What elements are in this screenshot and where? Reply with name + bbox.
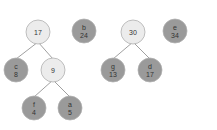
node-value: 17	[34, 29, 42, 36]
leaf-node-c: c8	[4, 58, 28, 82]
leaf-node-b: b24	[72, 19, 96, 43]
leaf-node-d: d17	[138, 58, 162, 82]
leaf-node-g: g13	[101, 58, 125, 82]
leaf-node-a: a5	[58, 96, 82, 120]
node-value: 24	[80, 32, 88, 39]
node-value: 13	[109, 71, 117, 78]
node-circle	[163, 19, 187, 43]
leaf-node-f: f4	[22, 96, 46, 120]
huffman-tree-diagram: 17b24c89f4a530e34g13d17	[0, 0, 217, 130]
tree-edge	[113, 42, 133, 59]
node-circle	[58, 96, 82, 120]
node-label: g	[111, 63, 115, 71]
node-circle	[4, 58, 28, 82]
tree-edge	[38, 42, 53, 59]
tree-edge	[133, 42, 150, 59]
node-label: b	[82, 24, 86, 31]
node-circle	[22, 96, 46, 120]
leaf-node-e: e34	[163, 19, 187, 43]
node-circle	[72, 19, 96, 43]
tree-edge	[16, 42, 38, 59]
node-value: 30	[129, 29, 137, 36]
internal-node-30: 30	[121, 20, 145, 44]
node-value: 4	[32, 109, 36, 116]
node-value: 34	[171, 32, 179, 39]
node-value: 8	[14, 71, 18, 78]
node-label: c	[14, 63, 18, 70]
node-label: e	[173, 24, 177, 31]
node-label: a	[68, 101, 72, 108]
node-label: f	[33, 101, 35, 108]
node-label: d	[148, 63, 152, 70]
node-value: 5	[68, 109, 72, 116]
node-circle	[138, 58, 162, 82]
tree-edge	[34, 80, 53, 97]
node-value: 17	[146, 71, 154, 78]
internal-node-17: 17	[26, 20, 50, 44]
tree-edge	[53, 80, 70, 97]
node-circle	[101, 58, 125, 82]
internal-node-9: 9	[41, 58, 65, 82]
node-value: 9	[51, 67, 55, 74]
